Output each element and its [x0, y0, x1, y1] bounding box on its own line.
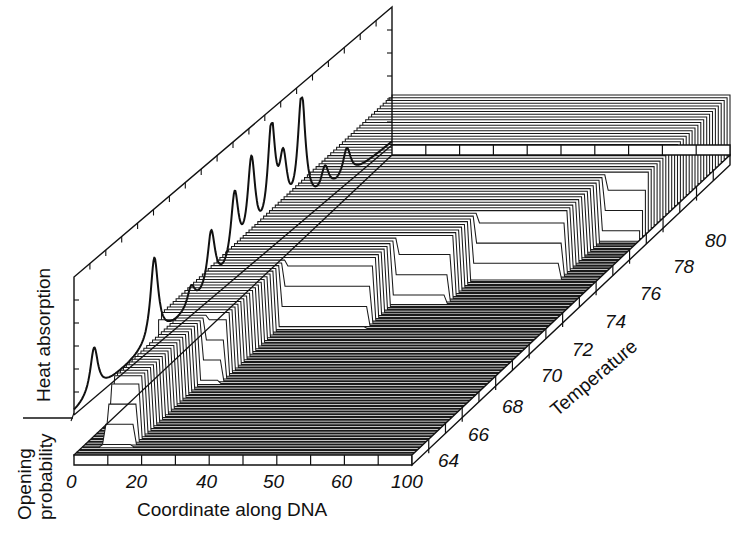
z-tick-74: 74 [605, 311, 626, 332]
x-axis-title: Coordinate along DNA [137, 499, 327, 520]
z-tick-64: 64 [438, 450, 459, 471]
trace-line [80, 450, 418, 451]
x-tick-0: 0 [66, 471, 77, 492]
trace-line [77, 452, 415, 453]
x-tick-2: 40 [196, 471, 218, 492]
x-tick-1: 20 [125, 471, 148, 492]
melting-waterfall-chart: 0 20 40 50 60 100 Coordinate along DNA 6… [0, 0, 755, 554]
z-tick-70: 70 [541, 365, 563, 386]
x-axis-tick-labels: 0 20 40 50 60 100 [66, 471, 423, 492]
x-tick-3: 50 [263, 471, 285, 492]
z-tick-66: 66 [468, 424, 490, 445]
x-tick-5: 100 [391, 471, 423, 492]
z-tick-80: 80 [705, 230, 727, 251]
opening-probability-label-line2: probability [35, 433, 56, 520]
z-tick-72: 72 [572, 339, 594, 360]
z-tick-76: 76 [640, 283, 662, 304]
x-tick-4: 60 [331, 471, 353, 492]
z-tick-68: 68 [502, 396, 524, 417]
heat-absorption-label: Heat absorption [33, 268, 54, 402]
z-tick-78: 78 [673, 256, 695, 277]
opening-probability-label-line1: Opening [14, 448, 35, 520]
